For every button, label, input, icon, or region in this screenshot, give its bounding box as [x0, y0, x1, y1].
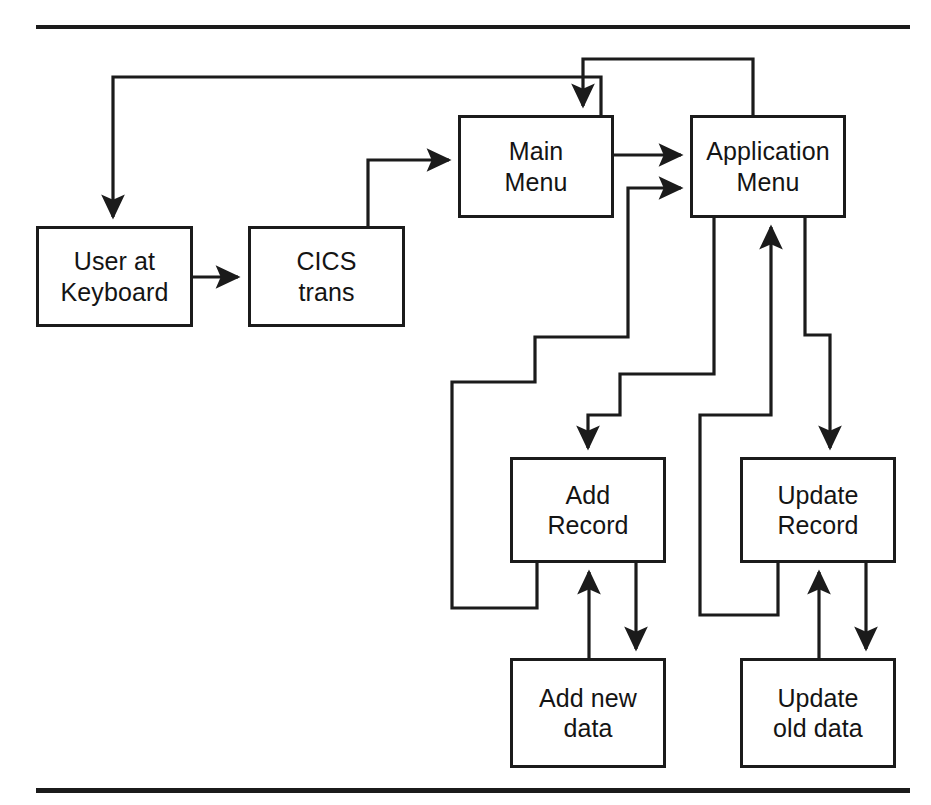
node-label-line: Add new — [539, 683, 637, 714]
node-label-line: Menu — [505, 167, 568, 198]
node-cics-trans[interactable]: CICS trans — [248, 226, 405, 327]
node-update-old-data[interactable]: Update old data — [740, 658, 896, 768]
node-label-line: Record — [547, 510, 628, 541]
node-label-line: trans — [298, 277, 354, 308]
bottom-rule — [36, 788, 910, 793]
flowchart-diagram: User at Keyboard CICS trans Main Menu Ap… — [0, 0, 931, 805]
node-label-line: Menu — [737, 167, 800, 198]
edge-application-menu-to-add-record — [588, 218, 714, 448]
edge-application-menu-to-main-menu — [583, 59, 753, 115]
node-label-line: Update — [777, 480, 858, 511]
node-label-line: Keyboard — [61, 277, 169, 308]
node-label-line: User at — [74, 246, 155, 277]
edge-application-menu-to-update-record — [805, 218, 830, 448]
top-rule — [36, 25, 910, 29]
node-label-line: CICS — [296, 246, 356, 277]
node-add-new-data[interactable]: Add new data — [510, 658, 666, 768]
node-add-record[interactable]: Add Record — [510, 457, 666, 563]
node-user-at-keyboard[interactable]: User at Keyboard — [36, 226, 193, 327]
node-label-line: old data — [773, 713, 863, 744]
node-update-record[interactable]: Update Record — [740, 457, 896, 563]
node-main-menu[interactable]: Main Menu — [458, 115, 614, 218]
node-label-line: Record — [777, 510, 858, 541]
node-label-line: Add — [566, 480, 611, 511]
edge-cics-to-main-menu — [368, 160, 449, 226]
node-label-line: data — [563, 713, 612, 744]
node-label-line: Main — [509, 136, 564, 167]
node-label-line: Application — [706, 136, 829, 167]
node-application-menu[interactable]: Application Menu — [690, 115, 846, 218]
node-label-line: Update — [777, 683, 858, 714]
